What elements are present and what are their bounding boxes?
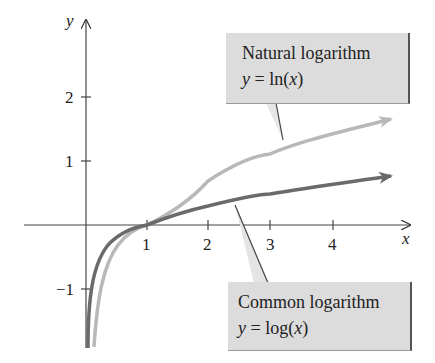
x-tick-2: 2: [203, 236, 212, 253]
y-tick-neg1: −1: [56, 281, 74, 298]
x-tick-1: 1: [142, 236, 151, 253]
x-axis-label: x: [402, 230, 410, 247]
y-tick-1: 1: [65, 153, 74, 170]
common-log-callout: Common logarithm y = log(x): [228, 282, 412, 351]
natural-pointer-shadow: [266, 103, 283, 140]
common-log-equation: y = log(x): [238, 315, 398, 341]
x-tick-3: 3: [266, 236, 275, 253]
y-axis-label: y: [66, 12, 74, 29]
y-tick-2: 2: [65, 89, 74, 106]
axis-ticks: [81, 97, 333, 289]
natural-log-callout: Natural logarithm y = ln(x): [226, 33, 410, 104]
natural-log-title: Natural logarithm: [242, 40, 396, 66]
x-tick-4: 4: [328, 236, 337, 253]
common-log-title: Common logarithm: [238, 289, 398, 315]
natural-log-equation: y = ln(x): [242, 66, 396, 92]
